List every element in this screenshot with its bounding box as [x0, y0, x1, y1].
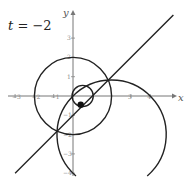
- x-tick-label: 3: [128, 93, 132, 100]
- x-axis-arrow-icon: [172, 94, 177, 99]
- x-tick-label: −2: [31, 93, 40, 100]
- x-tick-label: −3: [12, 93, 21, 100]
- geometry-diagram: x y −3−2−134321−1−2−3−4: [0, 0, 187, 190]
- y-tick-label: 1: [67, 73, 71, 80]
- x-tick-label: −1: [51, 93, 60, 100]
- x-axis-label: x: [178, 92, 184, 103]
- y-axis-label: y: [62, 7, 69, 18]
- moving-point: [78, 101, 84, 107]
- y-axis-arrow-icon: [71, 10, 76, 15]
- y-tick-label: −3: [63, 150, 72, 157]
- y-tick-label: 3: [67, 34, 71, 41]
